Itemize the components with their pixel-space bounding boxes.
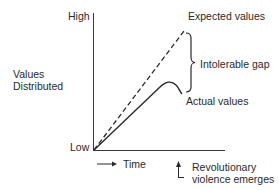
intolerable-gap-label: Intolerable gap — [200, 58, 269, 70]
revolutionary-label-line1: Revolutionary — [192, 161, 256, 173]
y-axis-high-label: High — [68, 10, 90, 22]
y-axis-title-line1: Values — [13, 68, 44, 80]
y-axis-title-line2: Distributed — [13, 80, 63, 92]
gap-brace-icon — [186, 33, 195, 92]
x-axis-time-label: Time — [123, 158, 146, 170]
right-arrow-icon — [97, 162, 117, 167]
revolutionary-label-line2: violence emerges — [192, 173, 274, 185]
actual-values-label: Actual values — [186, 95, 248, 107]
y-axis-low-label: Low — [70, 141, 89, 153]
expected-values-line — [94, 31, 184, 150]
up-arrow-icon — [176, 161, 184, 178]
expected-values-label: Expected values — [188, 10, 265, 22]
